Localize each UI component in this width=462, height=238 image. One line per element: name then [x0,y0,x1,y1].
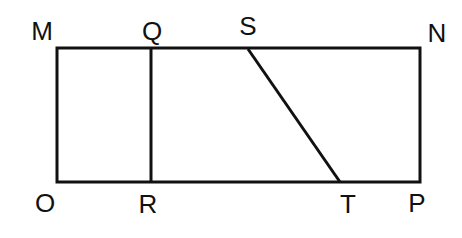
vertex-label-o: O [35,190,55,216]
vertex-label-t: T [340,191,356,217]
figure-svg [0,0,462,238]
vertex-label-q: Q [142,18,162,44]
vertex-label-m: M [31,18,53,44]
geometry-figure-canvas: M Q S N O R T P [0,0,462,238]
rectangle-mnpo-shape [57,48,420,182]
vertex-label-n: N [428,20,447,46]
vertex-label-s: S [239,13,256,39]
segment-st-line [248,49,340,182]
vertex-label-r: R [139,191,158,217]
vertex-label-p: P [408,190,425,216]
